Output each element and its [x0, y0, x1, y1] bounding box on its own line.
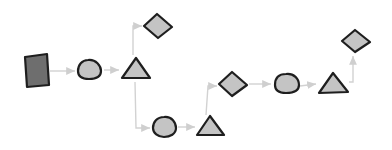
square-node[interactable]: [25, 54, 49, 87]
circle-node[interactable]: [78, 60, 101, 79]
triangle-node[interactable]: [197, 116, 224, 135]
nodes: [25, 14, 370, 137]
diamond-node[interactable]: [144, 14, 172, 38]
edge-n3-n4: [133, 26, 142, 55]
edge-n3-n5: [135, 82, 150, 128]
edge-n8-n9: [300, 84, 316, 86]
diamond-node[interactable]: [342, 30, 370, 52]
flow-diagram: [0, 0, 392, 150]
diamond-node[interactable]: [219, 72, 247, 96]
triangle-node[interactable]: [319, 73, 348, 93]
edge-n6-n7: [206, 86, 217, 115]
circle-node[interactable]: [275, 74, 299, 93]
triangle-node[interactable]: [122, 58, 150, 78]
edge-n9-n10: [349, 56, 353, 82]
circle-node[interactable]: [153, 117, 176, 137]
